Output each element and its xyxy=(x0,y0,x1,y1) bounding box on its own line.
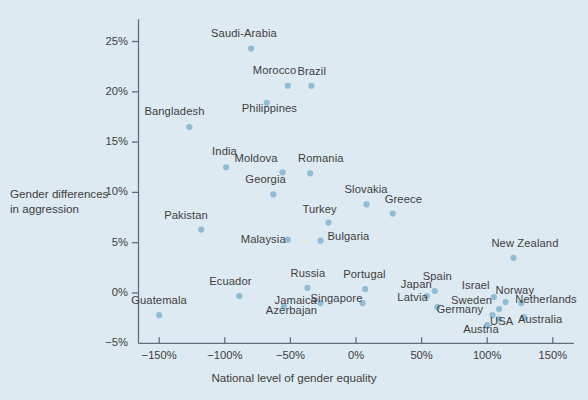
data-point[interactable] xyxy=(285,83,291,89)
data-point[interactable] xyxy=(304,285,310,291)
data-point-label: Japan xyxy=(401,279,432,290)
data-point-label: Netherlands xyxy=(515,294,576,305)
data-point-label: Ecuador xyxy=(209,276,251,287)
data-point[interactable] xyxy=(363,201,369,207)
data-point-label: Slovakia xyxy=(344,184,387,195)
data-point-label: Germany xyxy=(436,304,483,315)
data-point[interactable] xyxy=(186,124,192,130)
data-point[interactable] xyxy=(317,238,323,244)
data-point-label: India xyxy=(212,146,237,157)
y-tick-label: 25% xyxy=(80,36,128,47)
scatter-chart: Gender differences in aggression Nationa… xyxy=(0,0,588,400)
y-tick-label: 0% xyxy=(80,287,128,298)
data-point-label: Malaysia xyxy=(241,234,286,245)
data-point-label: Portugal xyxy=(343,269,385,280)
data-point-label: Singapore xyxy=(311,293,363,304)
data-point[interactable] xyxy=(510,255,516,261)
y-tick-label: 10% xyxy=(80,186,128,197)
data-point-label: Pakistan xyxy=(164,210,208,221)
data-point[interactable] xyxy=(308,83,314,89)
y-tick-label: 20% xyxy=(80,86,128,97)
data-point-label: Russia xyxy=(290,268,325,279)
data-point-label: Austria xyxy=(463,324,499,335)
data-point[interactable] xyxy=(362,286,368,292)
y-tick-label: 15% xyxy=(80,136,128,147)
data-point[interactable] xyxy=(325,219,331,225)
data-point-label: Guatemala xyxy=(131,295,187,306)
data-point-label: New Zealand xyxy=(491,238,558,249)
y-tick-label: −5% xyxy=(80,337,128,348)
data-point-label: Morocco xyxy=(253,65,297,76)
data-point-label: Bangladesh xyxy=(144,106,204,117)
data-point-label: Georgia xyxy=(245,174,286,185)
data-point[interactable] xyxy=(307,170,313,176)
data-point-label: Romania xyxy=(298,153,343,164)
y-axis-title-line2: in aggression xyxy=(10,201,108,216)
data-point[interactable] xyxy=(156,312,162,318)
data-point[interactable] xyxy=(432,288,438,294)
data-point[interactable] xyxy=(496,306,502,312)
y-tick-label: 5% xyxy=(80,237,128,248)
x-tick-label: 150% xyxy=(513,350,588,361)
data-point-label: Israel xyxy=(462,280,490,291)
data-point[interactable] xyxy=(390,210,396,216)
data-point[interactable] xyxy=(198,227,204,233)
data-point[interactable] xyxy=(502,299,508,305)
data-point-label: Brazil xyxy=(297,66,326,77)
data-point-label: Moldova xyxy=(235,153,278,164)
data-point[interactable] xyxy=(270,191,276,197)
data-point-label: Australia xyxy=(518,314,562,325)
data-point[interactable] xyxy=(223,164,229,170)
data-point-label: Azerbajan xyxy=(266,305,317,316)
data-point-label: Saudi-Arabia xyxy=(211,28,277,39)
data-point[interactable] xyxy=(248,45,254,51)
x-axis-title: National level of gender equality xyxy=(0,371,588,384)
data-point-label: Turkey xyxy=(302,204,336,215)
data-point[interactable] xyxy=(236,293,242,299)
data-point-label: Latvia xyxy=(397,292,427,303)
data-point-label: Bulgaria xyxy=(328,231,370,242)
data-point-label: Greece xyxy=(385,194,422,205)
data-point-label: Philippines xyxy=(242,103,297,114)
